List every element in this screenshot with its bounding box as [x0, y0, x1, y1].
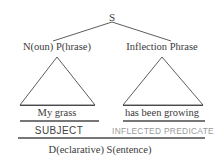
sentence-type-label: D(eclarative) S(entence): [49, 145, 152, 156]
syntax-tree-diagram: S N(oun) P(hrase) Inflection Phrase My g…: [0, 0, 224, 160]
inflected-predicate-function-label: INFLECTED PREDICATE: [112, 127, 214, 135]
inflection-phrase-triangle: [123, 57, 203, 105]
inflection-phrase-category-label: Inflection Phrase: [126, 42, 197, 53]
inflection-phrase-terminal-text: has been growing: [125, 108, 199, 119]
tree-lines: [0, 0, 224, 160]
root-node-label: S: [109, 12, 115, 23]
noun-phrase-terminal-text: My grass: [38, 108, 77, 119]
root-right-branch: [112, 22, 171, 41]
noun-phrase-triangle: [20, 57, 95, 105]
noun-phrase-category-label: N(oun) P(hrase): [23, 42, 91, 53]
subject-function-label: SUBJECT: [35, 126, 83, 136]
root-left-branch: [53, 22, 112, 41]
